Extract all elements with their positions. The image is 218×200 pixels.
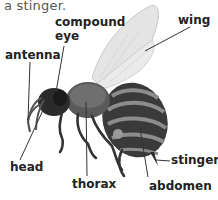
label-antenna: antenna xyxy=(5,49,61,62)
label-wing: wing xyxy=(178,14,210,27)
label-head: head xyxy=(10,161,43,174)
thorax-shape xyxy=(66,82,110,118)
leader-head xyxy=(20,108,44,160)
label-abdomen: abdomen xyxy=(149,180,212,193)
label-thorax: thorax xyxy=(72,178,116,191)
antennae xyxy=(28,98,44,132)
leader-stinger xyxy=(156,160,170,161)
label-compound-eye-line1: compound xyxy=(55,16,125,29)
label-compound-eye-line2: eye xyxy=(55,30,79,43)
label-stinger: stinger xyxy=(171,154,218,167)
